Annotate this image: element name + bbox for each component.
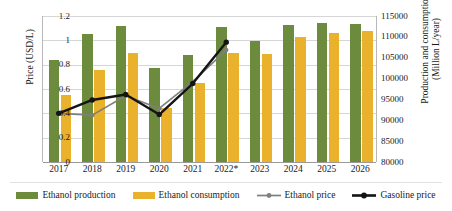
bar-ethanol-consumption xyxy=(61,95,72,162)
legend-label: Ethanol consumption xyxy=(159,190,240,200)
bar-ethanol-consumption xyxy=(295,37,306,162)
bar-ethanol-production xyxy=(149,68,160,162)
legend-swatch-icon xyxy=(133,192,155,199)
bar-ethanol-consumption xyxy=(362,31,373,162)
y-axis-left-tick: 0.6 xyxy=(24,85,70,94)
bar-ethanol-production xyxy=(82,34,93,162)
bar-ethanol-production xyxy=(317,23,328,162)
legend-item[interactable]: Ethanol consumption xyxy=(133,190,240,200)
x-axis-tick: 2020 xyxy=(143,164,177,174)
bar-ethanol-production xyxy=(250,41,261,162)
bar-ethanol-production xyxy=(116,26,127,162)
bar-group xyxy=(311,16,345,162)
bar-ethanol-production xyxy=(216,27,227,162)
bar-ethanol-consumption xyxy=(94,70,105,162)
y-axis-left-tick: 1 xyxy=(24,36,70,45)
y-axis-left-tick: 1.2 xyxy=(24,12,70,21)
legend-item[interactable]: Gasoline price xyxy=(352,190,435,200)
legend-label: Ethanol price xyxy=(285,190,336,200)
x-axis-tick: 2017 xyxy=(42,164,76,174)
gridline xyxy=(43,162,376,163)
chart-legend: Ethanol productionEthanol consumptionEth… xyxy=(0,186,452,204)
x-axis-tick: 2026 xyxy=(344,164,378,174)
bar-ethanol-production xyxy=(183,55,194,162)
x-axis-tick: 2018 xyxy=(76,164,110,174)
x-axis-tick: 2025 xyxy=(310,164,344,174)
legend-label: Gasoline price xyxy=(380,190,435,200)
bar-ethanol-consumption xyxy=(161,108,172,162)
x-axis-tick: 2021 xyxy=(176,164,210,174)
x-axis-tick: 2022* xyxy=(210,164,244,174)
plot-area xyxy=(42,16,377,162)
y-axis-left-tick: 0.4 xyxy=(24,109,70,118)
bar-group xyxy=(244,16,278,162)
legend-divider xyxy=(10,182,442,183)
y-axis-right-tick: 90000 xyxy=(381,116,423,125)
y-axis-right-tick: 110000 xyxy=(381,32,423,41)
y-axis-left-tick: 0.2 xyxy=(24,133,70,142)
legend-swatch-icon xyxy=(352,191,376,200)
chart-container: Price (USD/L) Production and consumption… xyxy=(0,0,452,211)
bar-group xyxy=(177,16,211,162)
bar-group xyxy=(110,16,144,162)
x-axis-tick: 2023 xyxy=(243,164,277,174)
y-axis-right-tick: 85000 xyxy=(381,137,423,146)
y-axis-right-tick: 105000 xyxy=(381,53,423,62)
bar-ethanol-consumption xyxy=(228,53,239,162)
y-axis-right-tick: 95000 xyxy=(381,95,423,104)
bar-ethanol-consumption xyxy=(128,53,139,163)
bar-group xyxy=(144,16,178,162)
legend-swatch-icon xyxy=(16,192,38,199)
bar-group xyxy=(211,16,245,162)
y-axis-right-tick: 115000 xyxy=(381,12,423,21)
y-axis-right-tick: 100000 xyxy=(381,74,423,83)
legend-label: Ethanol production xyxy=(42,190,115,200)
bar-ethanol-consumption xyxy=(329,33,340,162)
x-axis-tick: 2024 xyxy=(277,164,311,174)
y-axis-left-tick: 0.8 xyxy=(24,60,70,69)
x-axis-tick: 2019 xyxy=(109,164,143,174)
legend-item[interactable]: Ethanol production xyxy=(16,190,115,200)
bar-ethanol-production xyxy=(283,25,294,162)
y-axis-right-title: Production and consumption (Million L/ye… xyxy=(420,0,442,109)
bar-group xyxy=(77,16,111,162)
legend-swatch-icon xyxy=(257,191,281,200)
bar-group xyxy=(278,16,312,162)
legend-item[interactable]: Ethanol price xyxy=(257,190,336,200)
bar-ethanol-production xyxy=(350,24,361,162)
bar-ethanol-consumption xyxy=(262,54,273,162)
bar-ethanol-consumption xyxy=(195,83,206,162)
bar-group xyxy=(345,16,379,162)
y-axis-right-tick: 80000 xyxy=(381,158,423,167)
